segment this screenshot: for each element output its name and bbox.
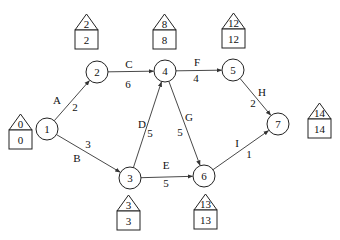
node-number: 7 <box>275 118 281 130</box>
cpm-network-diagram: 1234567 00223388121213131414 A2B3C6D5E5F… <box>0 0 340 240</box>
node-number: 5 <box>230 64 236 76</box>
earliest-time-value: 12 <box>228 17 239 29</box>
node-number: 4 <box>162 65 168 77</box>
edge-activity-label: B <box>73 152 80 164</box>
edge-c-arrow <box>108 71 154 72</box>
node-number: 2 <box>94 66 100 78</box>
node-6: 6 <box>193 165 215 187</box>
edge-i-arrow <box>213 131 269 170</box>
edge-duration-label: 3 <box>85 138 91 150</box>
node-5-time-box: 1212 <box>222 13 245 48</box>
node-3-time-box: 33 <box>117 195 140 230</box>
edge-activity-label: E <box>163 159 170 171</box>
latest-time-value: 8 <box>162 34 168 46</box>
edge-f-arrow <box>176 70 222 71</box>
edge-activity-label: A <box>53 94 61 106</box>
edge-g-arrow <box>169 81 200 165</box>
edge-activity-label: D <box>138 118 146 130</box>
edge-activity-label: G <box>185 111 193 123</box>
latest-time-value: 0 <box>18 134 24 146</box>
node-3: 3 <box>119 167 141 189</box>
node-4-time-box: 88 <box>153 14 176 49</box>
node-2-time-box: 22 <box>75 14 98 49</box>
earliest-time-value: 0 <box>18 118 24 130</box>
latest-time-value: 2 <box>84 34 90 46</box>
node-1: 1 <box>36 118 58 140</box>
earliest-time-value: 2 <box>84 18 90 30</box>
edge-activity-label: C <box>125 58 132 70</box>
node-2: 2 <box>86 61 108 83</box>
edge-duration-label: 2 <box>72 101 78 113</box>
earliest-time-value: 3 <box>126 199 132 211</box>
edge-activity-label: I <box>235 137 239 149</box>
edge-duration-label: 5 <box>177 126 183 138</box>
latest-time-value: 14 <box>314 123 326 135</box>
node-4: 4 <box>154 60 176 82</box>
edge-duration-label: 2 <box>250 97 256 109</box>
edge-activity-label: F <box>194 56 200 68</box>
edge-activity-label: H <box>258 86 266 98</box>
node-1-time-box: 00 <box>9 114 32 149</box>
earliest-time-value: 13 <box>200 198 212 210</box>
node-number: 1 <box>44 123 50 135</box>
node-5: 5 <box>222 59 244 81</box>
latest-time-value: 13 <box>200 214 212 226</box>
latest-time-value: 12 <box>228 33 239 45</box>
edge-duration-label: 5 <box>147 127 153 139</box>
node-6-time-box: 1313 <box>194 194 217 229</box>
edge-duration-label: 5 <box>163 177 169 189</box>
edge-duration-label: 6 <box>125 78 131 90</box>
edge-duration-label: 4 <box>193 72 199 84</box>
edge-duration-label: 1 <box>246 148 252 160</box>
earliest-time-value: 14 <box>314 107 326 119</box>
node-number: 3 <box>127 172 133 184</box>
latest-time-value: 3 <box>126 215 132 227</box>
node-7-time-box: 1414 <box>308 103 331 138</box>
earliest-time-value: 8 <box>162 18 168 30</box>
node-7: 7 <box>267 113 289 135</box>
node-number: 6 <box>201 170 207 182</box>
